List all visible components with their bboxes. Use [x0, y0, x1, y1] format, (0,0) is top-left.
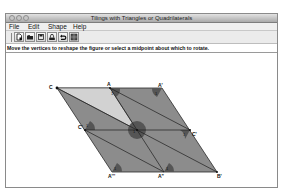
tile-grid-icon — [70, 33, 78, 41]
print-button[interactable] — [47, 32, 57, 42]
toolbar-grip — [11, 33, 12, 42]
open-button[interactable] — [25, 32, 35, 42]
menu-shape[interactable]: Shape — [48, 23, 67, 31]
vertex-label-a-triple: A''' — [108, 173, 115, 179]
midpoint-a[interactable] — [109, 87, 111, 89]
vertex-label-c-left: C' — [78, 124, 83, 130]
menu-file[interactable]: File — [9, 23, 19, 31]
new-button[interactable] — [14, 32, 24, 42]
midpoint-c-prime[interactable] — [189, 129, 191, 131]
app-window: Tilings with Triangles or Quadrilaterals… — [5, 13, 278, 188]
tile-button[interactable] — [69, 32, 79, 42]
vertex-label-a-prime: A' — [158, 82, 163, 88]
menu-help[interactable]: Help — [73, 23, 86, 31]
vertex-label-a: A — [107, 81, 111, 87]
window-title: Tilings with Triangles or Quadrilaterals — [6, 14, 277, 23]
print-icon — [48, 33, 56, 41]
vertex-label-a-double: A" — [158, 173, 164, 179]
save-button[interactable] — [36, 32, 46, 42]
open-folder-icon — [26, 33, 34, 41]
undo-button[interactable] — [58, 32, 68, 42]
midpoint-center[interactable] — [136, 129, 138, 131]
new-document-icon — [15, 33, 23, 41]
undo-icon — [59, 33, 67, 41]
menu-bar: File Edit Shape Help — [6, 23, 277, 31]
canvas-divider — [6, 52, 277, 53]
vertex-label-c: C — [49, 84, 53, 90]
vertex-label-b: B' — [217, 173, 222, 179]
title-bar[interactable]: Tilings with Triangles or Quadrilaterals — [6, 14, 277, 23]
instructions-text: Move the vertices to reshape the figure … — [7, 45, 209, 52]
midpoint-c-left[interactable] — [84, 129, 86, 131]
toolbar — [6, 31, 277, 44]
vertex-label-c-prime: C' — [192, 131, 197, 137]
vertex-c[interactable] — [56, 87, 59, 90]
save-icon — [37, 33, 45, 41]
menu-edit[interactable]: Edit — [28, 23, 39, 31]
